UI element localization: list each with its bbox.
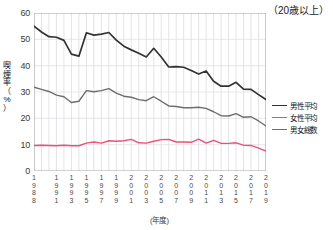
x-axis-tick-digit: 9 (96, 189, 107, 197)
x-axis-tick-digit: 9 (51, 182, 62, 190)
y-axis-tick-label: 60 (8, 8, 30, 18)
x-axis-tick-digit: 0 (186, 189, 197, 197)
x-axis-tick-digit: 9 (111, 189, 122, 197)
x-axis-tick-digit: 1 (201, 189, 212, 197)
legend-label-male: 男性平均 (290, 100, 317, 111)
x-axis-tick-label: 2011 (201, 174, 212, 204)
x-axis-tick-label: 1991 (51, 174, 62, 204)
x-axis-tick-digit: 8 (29, 197, 40, 205)
legend-item-female[interactable]: 女性平均 (272, 111, 317, 123)
x-axis-tick-digit: 3 (66, 197, 77, 205)
x-axis-tick-digit: 1 (51, 197, 62, 205)
x-axis-tick-label: 1995 (81, 174, 92, 204)
x-axis-tick-digit: 7 (246, 197, 257, 205)
x-axis-tick-digit: 9 (81, 182, 92, 190)
x-axis-tick-label: 2017 (246, 174, 257, 204)
x-axis-tick-digit: 2 (141, 174, 152, 182)
series-line-female (34, 139, 266, 151)
x-axis-tick-digit: 1 (201, 197, 212, 205)
x-axis-tick-digit: 1 (29, 174, 40, 182)
x-axis-tick-digit: 0 (141, 182, 152, 190)
chart-svg (34, 13, 266, 171)
x-axis-tick-digit: 9 (111, 197, 122, 205)
x-axis-tick-digit: 0 (231, 182, 242, 190)
x-axis-tick-digit: 7 (96, 197, 107, 205)
x-axis-tick-digit: 0 (186, 182, 197, 190)
x-axis-tick-digit: 0 (141, 189, 152, 197)
x-axis-tick-digit: 1 (111, 174, 122, 182)
x-axis-tick-label: 1997 (96, 174, 107, 204)
plot-area (34, 13, 266, 171)
legend-swatch-total (272, 129, 287, 130)
x-axis-tick-digit: 9 (81, 189, 92, 197)
y-axis-tick-label: 0 (8, 166, 30, 176)
x-axis-tick-digit: 1 (261, 189, 272, 197)
x-axis-tick-label: 2015 (231, 174, 242, 204)
x-axis-tick-label: 2005 (156, 174, 167, 204)
x-axis-tick-digit: 0 (156, 189, 167, 197)
x-axis-tick-digit: 1 (66, 174, 77, 182)
x-axis-tick-digit: 1 (126, 197, 137, 205)
x-axis-tick-digit: 9 (66, 182, 77, 190)
x-axis-tick-digit: 2 (231, 174, 242, 182)
legend-item-total[interactable]: 男女総数 (272, 123, 317, 135)
legend-item-male[interactable]: 男性平均 (272, 99, 317, 111)
x-axis-tick-digit: 1 (51, 174, 62, 182)
x-axis-tick-digit: 0 (126, 182, 137, 190)
x-axis-tick-label: 2013 (216, 174, 227, 204)
x-axis-tick-label: 2007 (171, 174, 182, 204)
y-axis-tick-label: 50 (8, 34, 30, 44)
y-axis-label-char: ） (1, 105, 13, 114)
x-axis-tick-digit: 1 (96, 174, 107, 182)
x-axis-tick-label: 1993 (66, 174, 77, 204)
x-axis-title: (年度) (150, 214, 169, 225)
x-axis-tick-digit: 0 (171, 189, 182, 197)
x-axis-tick-digit: 9 (66, 189, 77, 197)
x-axis-tick-digit: 3 (141, 197, 152, 205)
x-axis-tick-label: 2019 (261, 174, 272, 204)
x-axis-tick-label: 2001 (126, 174, 137, 204)
x-axis-tick-digit: 9 (51, 189, 62, 197)
x-axis-tick-digit: 2 (261, 174, 272, 182)
y-axis-tick-label: 40 (8, 61, 30, 71)
x-axis-tick-label: 1988 (29, 174, 40, 204)
x-axis-tick-digit: 9 (111, 182, 122, 190)
x-axis-tick-digit: 1 (81, 174, 92, 182)
x-axis-tick-digit: 7 (171, 197, 182, 205)
x-axis-tick-digit: 2 (126, 174, 137, 182)
x-axis-tick-digit: 1 (231, 189, 242, 197)
x-axis-tick-digit: 0 (171, 182, 182, 190)
x-axis-tick-digit: 3 (216, 197, 227, 205)
x-axis-tick-digit: 2 (201, 174, 212, 182)
x-axis-tick-digit: 0 (216, 182, 227, 190)
y-axis-tick-label: 10 (8, 140, 30, 150)
chart-annotation: （20歳以上） (268, 2, 329, 17)
x-axis-tick-digit: 0 (246, 182, 257, 190)
x-axis-tick-digit: 0 (261, 182, 272, 190)
legend-swatch-female (272, 117, 287, 118)
x-axis-tick-digit: 9 (261, 197, 272, 205)
x-axis-tick-digit: 9 (29, 182, 40, 190)
legend-label-total: 男女総数 (290, 124, 317, 135)
x-axis-tick-label: 2003 (141, 174, 152, 204)
x-axis-tick-digit: 9 (186, 197, 197, 205)
x-axis-tick-digit: 5 (231, 197, 242, 205)
x-axis-tick-digit: 1 (216, 189, 227, 197)
x-axis-tick-digit: 0 (156, 182, 167, 190)
x-axis-tick-digit: 2 (186, 174, 197, 182)
chart-root: （20歳以上） 喫 煙 率 （ % ） 0102030405060 198819… (0, 0, 333, 230)
x-axis-tick-digit: 5 (156, 197, 167, 205)
x-axis-tick-label: 2009 (186, 174, 197, 204)
legend-swatch-male (272, 105, 287, 106)
x-axis-tick-digit: 2 (246, 174, 257, 182)
x-axis-tick-digit: 5 (81, 197, 92, 205)
legend-label-female: 女性平均 (290, 112, 317, 123)
chart-legend: 男性平均 女性平均 男女総数 (272, 99, 317, 135)
x-axis-tick-digit: 1 (246, 189, 257, 197)
x-axis-tick-digit: 2 (216, 174, 227, 182)
y-axis-tick-label: 20 (8, 113, 30, 123)
series-line-male (34, 26, 266, 99)
x-axis-tick-digit: 2 (156, 174, 167, 182)
x-axis-tick-digit: 0 (201, 182, 212, 190)
y-axis-tick-label: 30 (8, 87, 30, 97)
